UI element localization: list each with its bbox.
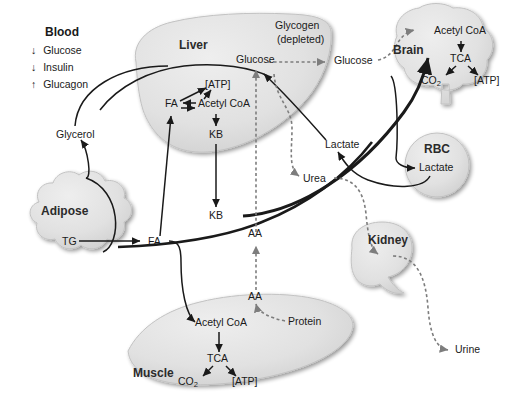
down-arrow-icon: ↓ — [31, 44, 36, 56]
organ-label-liver: Liver — [179, 39, 208, 51]
blood-kb-label: KB — [209, 210, 223, 221]
legend-item-glucagon: ↑ Glucagon — [31, 79, 88, 90]
legend-item-glucose-label: Glucose — [43, 44, 82, 56]
blood-aa-label: AA — [248, 228, 262, 239]
legend-item-insulin-label: Insulin — [43, 61, 73, 73]
liver-acetyl-coa-label: Acetyl CoA — [198, 98, 250, 109]
brain-atp-label: [ATP] — [474, 75, 499, 86]
metabolism-diagram: Blood ↓ Glucose ↓ Insulin ↑ Glucagon Liv… — [0, 0, 519, 413]
urea-label: Urea — [303, 173, 326, 184]
muscle-atp-label: [ATP] — [232, 376, 257, 387]
rbc-lactate-label: Lactate — [419, 162, 453, 173]
legend-title: Blood — [45, 26, 79, 38]
organ-label-brain: Brain — [393, 44, 424, 56]
glycogen-depleted-line1: Glycogen — [275, 20, 319, 31]
up-arrow-icon: ↑ — [31, 78, 36, 90]
glycerol-label: Glycerol — [56, 129, 95, 140]
adipose-tg-label: TG — [62, 236, 77, 247]
protein-label: Protein — [288, 316, 321, 327]
liver-glucose-label: Glucose — [236, 54, 275, 65]
organ-label-rbc: RBC — [424, 143, 450, 155]
legend-item-glucagon-label: Glucagon — [43, 78, 88, 90]
glycogen-depleted-line2: (depleted) — [277, 34, 324, 45]
blood-lactate-label: Lactate — [325, 139, 359, 150]
down-arrow-icon: ↓ — [31, 61, 36, 73]
blood-fa-label: FA — [148, 236, 161, 247]
organ-label-kidney: Kidney — [368, 234, 408, 246]
blood-boundary-lower — [118, 142, 372, 247]
muscle-tca-label: TCA — [207, 353, 228, 364]
organ-label-muscle: Muscle — [133, 367, 174, 379]
muscle-acetyl-coa-label: Acetyl CoA — [195, 317, 247, 328]
organ-label-adipose: Adipose — [41, 205, 88, 217]
muscle-aa-label: AA — [248, 291, 262, 302]
brain-tca-label: TCA — [450, 53, 471, 64]
liver-atp-label: [ATP] — [205, 79, 230, 90]
urine-label: Urine — [455, 344, 480, 355]
legend-item-insulin: ↓ Insulin — [31, 62, 74, 73]
brain-co2-label: CO2 — [421, 75, 441, 88]
legend-item-glucose: ↓ Glucose — [31, 45, 82, 56]
liver-fa-label: FA — [165, 98, 178, 109]
liver-kb-label: KB — [209, 129, 223, 140]
brain-acetyl-coa-label: Acetyl CoA — [434, 25, 486, 36]
blood-glucose-label: Glucose — [334, 55, 373, 66]
muscle-co2-label: CO2 — [178, 376, 198, 389]
